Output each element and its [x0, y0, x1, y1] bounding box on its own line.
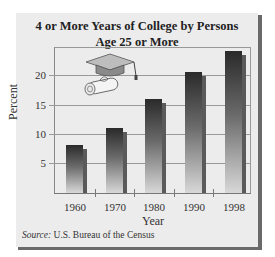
y-tick: 5 — [20, 157, 46, 169]
bar-shadow — [202, 76, 206, 193]
x-tick-label: 1990 — [174, 201, 214, 213]
x-tick-mark — [174, 189, 175, 197]
bar-1990 — [185, 72, 202, 193]
bar-1980 — [145, 99, 162, 193]
y-tick: 20 — [20, 69, 46, 81]
bar-shadow — [242, 55, 246, 193]
panel-shadow — [258, 15, 262, 249]
bar-1970 — [106, 128, 123, 193]
chart-title: 4 or More Years of College by Persons Ag… — [16, 18, 258, 50]
y-tick: 15 — [20, 99, 46, 111]
bar-1960 — [66, 145, 83, 193]
x-tick-mark — [134, 189, 135, 197]
x-axis — [54, 193, 251, 194]
source-label: Source: — [22, 230, 51, 240]
x-tick-label: 1998 — [214, 201, 254, 213]
x-tick-label: 1970 — [95, 201, 135, 213]
bar-1998 — [225, 51, 242, 193]
x-tick-label: 1980 — [134, 201, 174, 213]
x-tick-mark — [95, 189, 96, 197]
title-line-1: 4 or More Years of College by Persons — [16, 18, 258, 34]
x-tick-label: 1960 — [55, 201, 95, 213]
x-tick-mark — [213, 189, 214, 197]
source-text: U.S. Bureau of the Census — [51, 230, 154, 240]
y-tick: 10 — [20, 128, 46, 140]
source-note: Source: U.S. Bureau of the Census — [22, 230, 154, 240]
bar-shadow — [162, 103, 166, 193]
panel-shadow — [18, 247, 262, 250]
x-axis-label: Year — [133, 214, 173, 229]
bar-shadow — [123, 132, 127, 193]
diploma-icon — [85, 77, 119, 95]
y-axis-label: Percent — [6, 84, 21, 120]
graduation-cap-icon — [80, 52, 140, 102]
bar-shadow — [83, 149, 87, 193]
